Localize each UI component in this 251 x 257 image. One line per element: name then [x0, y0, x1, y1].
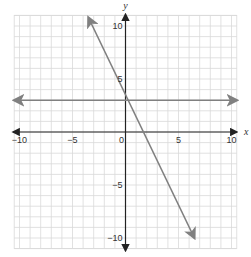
x-tick-label: −10 [12, 135, 27, 145]
y-tick-label: −5 [112, 180, 122, 190]
x-tick-label: −5 [67, 135, 77, 145]
coordinate-plane: −10−50510105−5−10xy [0, 0, 251, 257]
y-tick-label: 10 [112, 21, 122, 31]
x-tick-label: 0 [119, 135, 124, 145]
x-tick-label: 5 [176, 135, 181, 145]
y-axis-label: y [122, 0, 128, 11]
y-tick-label: 5 [117, 74, 122, 84]
x-tick-label: 10 [226, 135, 236, 145]
x-axis-label: x [243, 126, 249, 137]
y-tick-label: −10 [107, 233, 122, 243]
